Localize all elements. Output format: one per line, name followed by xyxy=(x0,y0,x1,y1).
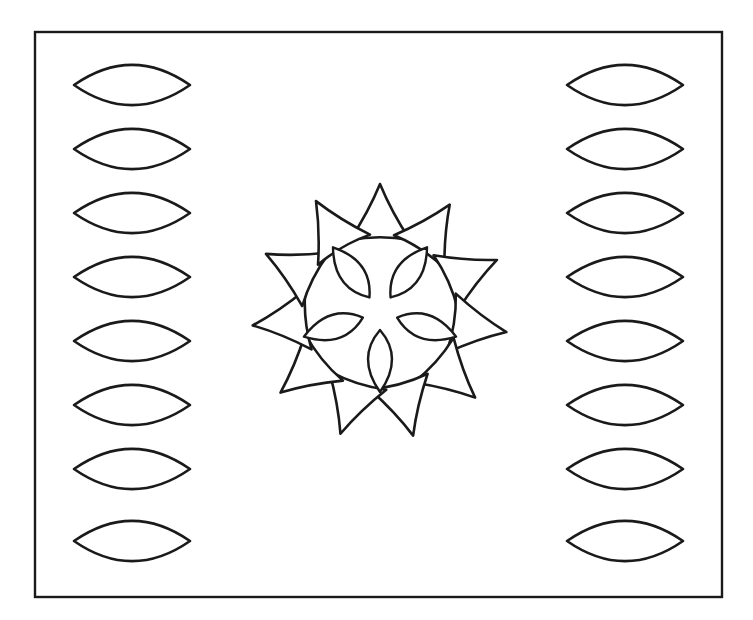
artboard xyxy=(0,0,753,620)
border-rectangle xyxy=(35,32,722,597)
coloring-page-canvas xyxy=(0,0,753,620)
